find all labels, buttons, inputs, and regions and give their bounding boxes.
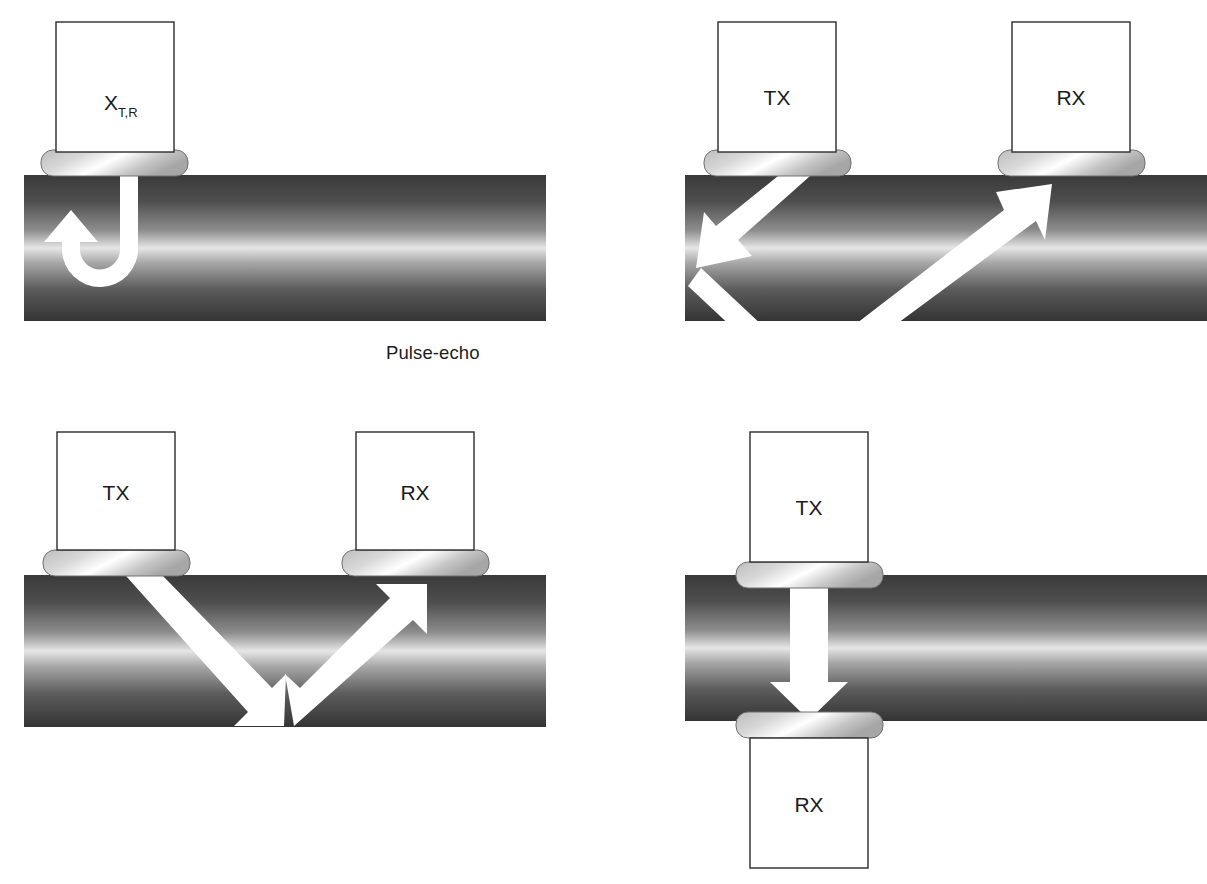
probe-box-receiver: RX [750,738,868,868]
tandem-diagram: TX RX [600,0,1207,420]
probe-box-transmitter: TX [718,22,836,152]
transducer-shoe-rx [342,550,489,576]
transducer-shoe-tx [43,550,190,576]
probe-label-transmitter: TX [103,481,130,504]
through-transmission-diagram: TX RX [600,420,1207,884]
probe-label-transmitter: TX [764,86,791,109]
probe-label-receiver: RX [794,793,823,816]
transducer-shoe-rx [736,712,883,738]
caption-pulse-echo: Pulse-echo [386,342,480,365]
probe-box-receiver: RX [356,432,474,550]
probe-box-transmitter: TX [57,432,175,550]
direct-pitch-catch-diagram: TX RX [0,420,600,884]
probe-box-transceiver: XT,R [56,22,174,152]
pipe-body [24,575,546,727]
ultrasonic-configurations-figure: XT,R Pulse-echo [0,0,1207,884]
panel-pulse-echo: XT,R Pulse-echo [0,0,600,420]
panel-direct-pitch-catch: TX RX Direct pitch-catch [0,420,600,884]
transducer-shoe-tx [704,150,851,176]
panel-tandem: TX RX Tandem (indirect pitch-catch) [600,0,1207,420]
pipe-body [24,175,546,321]
pipe-body [685,575,1207,721]
probe-label-receiver: RX [1056,86,1085,109]
probe-box-receiver: RX [1012,22,1130,152]
transducer-shoe-rx [998,150,1145,176]
probe-label-receiver: RX [400,481,429,504]
transducer-shoe-tx [736,562,883,588]
probe-label-transmitter: TX [796,496,823,519]
pulse-echo-diagram: XT,R [0,0,600,420]
panel-through-transmission: TX RX Through- transmission [600,420,1207,884]
transducer-shoe [41,150,188,176]
probe-box-transmitter: TX [750,432,868,562]
